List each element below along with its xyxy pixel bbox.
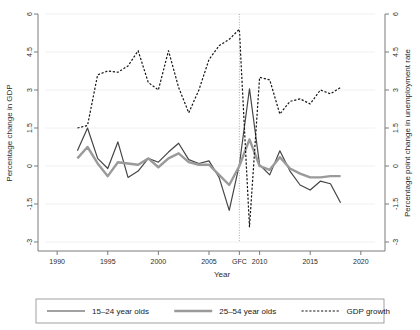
legend-label-0: 15–24 year olds: [92, 307, 149, 316]
x-tick-label: GFC: [232, 258, 247, 265]
y2-axis-title: Percentage point change in unemployment …: [403, 48, 412, 217]
chart-legend: 15–24 year olds25–54 year oldsGDP growth: [36, 299, 390, 323]
legend-label-1: 25–54 year olds: [219, 307, 276, 316]
y-tick-label: 6: [26, 12, 33, 16]
y2-tick-label: -1.5: [392, 198, 399, 210]
x-tick-label: 2000: [151, 258, 167, 265]
x-tick-label: 2020: [353, 258, 369, 265]
y2-tick-label: 3: [392, 88, 399, 92]
x-tick-label: 1995: [100, 258, 116, 265]
y-tick-label: 3: [26, 88, 33, 92]
y2-tick-label: 4.5: [392, 47, 399, 57]
x-tick-label: 2015: [302, 258, 318, 265]
y-axis-title: Percentage change in GDP: [5, 84, 14, 181]
x-tick-label: 1990: [49, 258, 65, 265]
y-tick-label: -1.5: [26, 198, 33, 210]
y2-tick-label: 1.5: [392, 123, 399, 133]
x-tick-label: 2005: [201, 258, 217, 265]
chart-figure: 1990199520002005GFC201020152020 -3-1.501…: [0, 0, 420, 330]
y2-tick-label: 6: [392, 12, 399, 16]
y-tick-label: 4.5: [26, 47, 33, 57]
x-tick-label: 2010: [252, 258, 268, 265]
y-tick-label: 0: [26, 164, 33, 168]
y2-tick-label: 0: [392, 164, 399, 168]
y-tick-label: -3: [26, 239, 33, 245]
line-chart: 1990199520002005GFC201020152020 -3-1.501…: [0, 0, 420, 330]
legend-label-2: GDP growth: [347, 307, 390, 316]
y2-tick-label: -3: [392, 239, 399, 245]
y-tick-label: 1.5: [26, 123, 33, 133]
x-axis-title: Year: [214, 270, 231, 279]
